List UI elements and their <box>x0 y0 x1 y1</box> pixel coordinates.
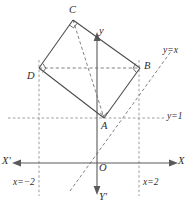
axes-group <box>12 32 178 195</box>
vertex-label-a: A <box>101 121 107 132</box>
figure-canvas: C D B A O y Y' X X' y=x y=1 x=−2 x=2 <box>0 0 193 208</box>
square-edges-group <box>39 20 140 118</box>
label-line-x-equals-neg2: x=−2 <box>13 178 35 188</box>
x-axis-negative-label: X' <box>2 156 11 167</box>
line-y-equals-x <box>70 50 172 191</box>
right-angle-marks-group <box>43 23 137 116</box>
y-axis-positive-label: y <box>99 26 104 37</box>
edge-a-b <box>104 68 140 118</box>
edge-d-a <box>39 68 104 118</box>
edge-b-c <box>73 20 140 68</box>
vertex-label-b: B <box>144 61 150 72</box>
label-line-y-equals-1: y=1 <box>167 112 182 122</box>
x-axis-positive-label: X <box>178 156 184 167</box>
square-diagonals-group <box>39 20 140 118</box>
x-axis-positive-arrow <box>169 160 178 167</box>
y-axis-negative-label: Y' <box>99 192 107 203</box>
edge-c-d <box>39 20 73 68</box>
vertex-label-c: C <box>69 5 76 16</box>
label-line-y-equals-x: y=x <box>163 46 178 56</box>
vertex-label-d: D <box>27 71 35 82</box>
x-axis-negative-arrow <box>12 160 21 167</box>
label-line-x-equals-2: x=2 <box>143 178 158 188</box>
origin-label: O <box>99 163 107 174</box>
